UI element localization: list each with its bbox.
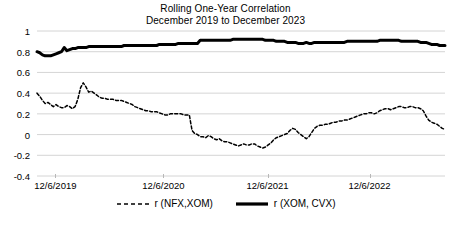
x-axis-tick-mark bbox=[55, 174, 56, 178]
y-axis-tick-label: 0 bbox=[25, 129, 30, 140]
y-axis-tick-label: 1 bbox=[25, 26, 30, 37]
y-axis: 10.80.60.40.20-0.2-0.4 bbox=[0, 31, 34, 176]
x-axis-tick-mark bbox=[268, 174, 269, 178]
x-axis-tick-label: 12/6/2022 bbox=[348, 180, 390, 191]
chart-root: Rolling One-Year Correlation December 20… bbox=[0, 0, 451, 228]
y-axis-tick-label: 0.2 bbox=[17, 108, 30, 119]
plot-canvas bbox=[37, 31, 445, 176]
series-line-1 bbox=[37, 83, 445, 148]
legend-solid-line-icon bbox=[235, 199, 269, 209]
y-axis-tick-label: 0.4 bbox=[17, 88, 30, 99]
series-line-2 bbox=[37, 39, 445, 56]
series-layer bbox=[37, 39, 445, 148]
x-axis-tick-mark bbox=[370, 174, 371, 178]
x-axis-tick-label: 12/6/2019 bbox=[34, 180, 76, 191]
legend-label-xom-cvx: r (XOM, CVX) bbox=[274, 198, 336, 209]
legend-dashed-line-icon bbox=[116, 199, 150, 209]
chart-legend: r (NFX,XOM) r (XOM, CVX) bbox=[0, 198, 451, 209]
chart-title-block: Rolling One-Year Correlation December 20… bbox=[0, 3, 451, 27]
legend-entry-nfx-xom[interactable]: r (NFX,XOM) bbox=[116, 198, 213, 209]
gridlines bbox=[37, 31, 445, 176]
chart-title: Rolling One-Year Correlation bbox=[0, 3, 451, 15]
legend-entry-xom-cvx[interactable]: r (XOM, CVX) bbox=[235, 198, 336, 209]
legend-label-nfx-xom: r (NFX,XOM) bbox=[155, 198, 213, 209]
plot-area bbox=[37, 31, 445, 176]
x-axis-tick-mark bbox=[163, 174, 164, 178]
x-axis-tick-label: 12/6/2020 bbox=[142, 180, 184, 191]
x-axis-tick-label: 12/6/2021 bbox=[246, 180, 288, 191]
y-axis-tick-label: -0.4 bbox=[14, 171, 30, 182]
y-axis-tick-label: 0.6 bbox=[17, 67, 30, 78]
chart-subtitle: December 2019 to December 2023 bbox=[0, 15, 451, 27]
y-axis-tick-label: -0.2 bbox=[14, 150, 30, 161]
y-axis-tick-label: 0.8 bbox=[17, 46, 30, 57]
x-axis: 12/6/201912/6/202012/6/202112/6/2022 bbox=[37, 178, 445, 194]
